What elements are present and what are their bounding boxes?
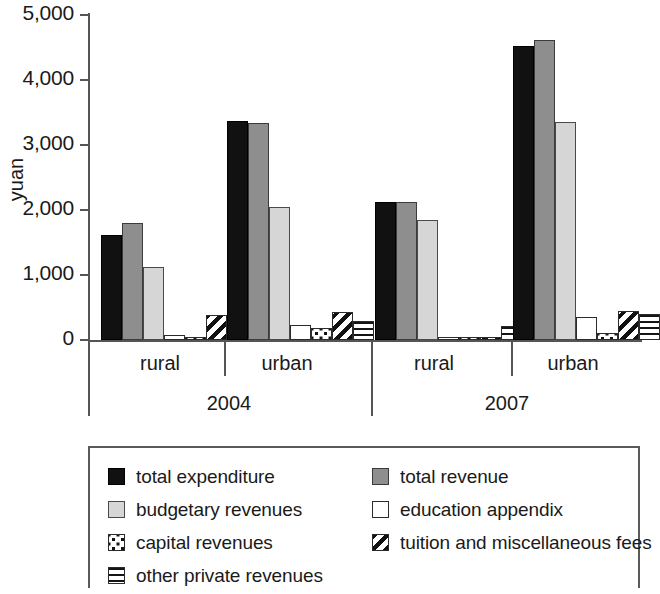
x-axis-subgroup-label: rural <box>374 352 494 375</box>
legend-item[interactable]: tuition and miscellaneous fees <box>372 526 637 559</box>
legend-item-label: education appendix <box>400 499 563 521</box>
gray-swatch <box>372 468 389 485</box>
legend-item-label: other private revenues <box>136 565 323 587</box>
bar <box>143 267 164 340</box>
y-axis-title: yuan <box>5 130 28 230</box>
legend-item[interactable]: budgetary revenues <box>108 493 368 526</box>
bar-group <box>101 15 248 340</box>
bar <box>513 46 534 340</box>
diagonal-stripes-swatch <box>372 534 389 551</box>
bar <box>164 335 185 340</box>
x-axis-line <box>88 340 642 342</box>
y-axis-tick <box>80 209 89 211</box>
y-axis-tick-label: 4,000 <box>22 66 74 90</box>
bar <box>576 317 597 340</box>
bar <box>290 325 311 340</box>
horizontal-lines-swatch <box>108 567 125 584</box>
y-axis-tick <box>80 274 89 276</box>
y-axis-tick <box>80 14 89 16</box>
axis-edge-separator <box>88 342 90 416</box>
legend-item-label: budgetary revenues <box>136 499 302 521</box>
bar <box>332 312 353 340</box>
y-axis-tick-label: 2,000 <box>22 196 74 220</box>
legend-column-right: total revenueeducation appendixtuition a… <box>372 460 637 559</box>
bar <box>311 328 332 340</box>
chart-legend: total expenditurebudgetary revenuescapit… <box>88 446 640 588</box>
plot-area <box>88 15 640 340</box>
bar <box>396 202 417 340</box>
legend-item[interactable]: total expenditure <box>108 460 368 493</box>
bar-group <box>375 15 522 340</box>
bar <box>438 337 459 340</box>
legend-item-label: tuition and miscellaneous fees <box>400 532 652 554</box>
bar-group <box>227 15 374 340</box>
legend-item[interactable]: capital revenues <box>108 526 368 559</box>
x-axis-subgroup-label: rural <box>100 352 220 375</box>
x-axis-subgroup-label: urban <box>227 352 347 375</box>
bar <box>618 311 639 340</box>
legend-item-label: total expenditure <box>136 466 275 488</box>
bar <box>101 235 122 340</box>
white-swatch <box>372 501 389 518</box>
bar <box>185 337 206 340</box>
bar <box>459 337 480 340</box>
light-gray-swatch <box>108 501 125 518</box>
bar <box>597 333 618 340</box>
bar <box>353 321 374 341</box>
bar <box>480 337 501 340</box>
bar <box>248 123 269 340</box>
dotted-swatch <box>108 534 125 551</box>
bar <box>534 40 555 340</box>
legend-item-label: total revenue <box>400 466 509 488</box>
y-axis-tick-label: 3,000 <box>22 131 74 155</box>
legend-column-left: total expenditurebudgetary revenuescapit… <box>108 460 368 592</box>
solid-black-swatch <box>108 468 125 485</box>
bar <box>375 202 396 340</box>
bar-group <box>513 15 660 340</box>
y-axis-tick-label: 1,000 <box>22 261 74 285</box>
legend-item[interactable]: other private revenues <box>108 559 368 592</box>
x-axis-subgroup-label: urban <box>513 352 633 375</box>
y-axis-tick <box>80 339 89 341</box>
bar <box>639 314 660 340</box>
x-axis-year-label: 2007 <box>447 392 567 415</box>
y-axis-tick-label: 0 <box>63 326 74 350</box>
bar <box>122 223 143 340</box>
bar <box>206 315 227 340</box>
year-group-separator <box>371 342 373 416</box>
bar <box>227 121 248 340</box>
legend-item[interactable]: education appendix <box>372 493 637 526</box>
subgroup-separator <box>224 342 226 376</box>
legend-item-label: capital revenues <box>136 532 273 554</box>
x-axis-year-label: 2004 <box>169 392 289 415</box>
bar <box>269 207 290 340</box>
bar <box>417 220 438 340</box>
y-axis-tick <box>80 79 89 81</box>
y-axis-tick <box>80 144 89 146</box>
y-axis-tick-label: 5,000 <box>22 1 74 25</box>
legend-item[interactable]: total revenue <box>372 460 637 493</box>
bar <box>555 122 576 340</box>
